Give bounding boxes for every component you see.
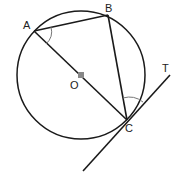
diagram-svg: A B C O T: [0, 0, 181, 189]
label-t: T: [162, 62, 169, 74]
segment-ab: [34, 15, 108, 31]
center-dot: [78, 72, 84, 78]
label-c: C: [125, 122, 133, 134]
circle-geometry-diagram: A B C O T: [0, 0, 181, 189]
label-b: B: [105, 2, 112, 14]
label-o: O: [70, 79, 79, 91]
label-a: A: [23, 19, 31, 31]
angle-mark-bac: [46, 27, 52, 44]
